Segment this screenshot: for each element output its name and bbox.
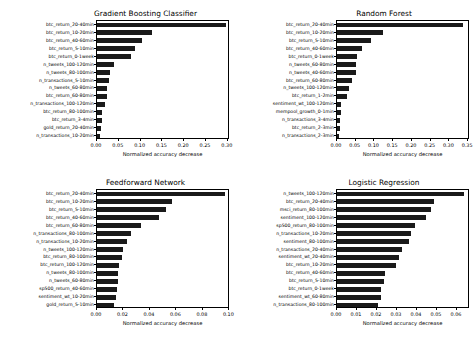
plot-area <box>96 189 229 308</box>
bar <box>337 255 399 260</box>
y-tick-mark <box>334 119 336 120</box>
y-tick-mark <box>334 40 336 41</box>
y-tick-labels: btc_return_20-40minbtc_return_10-20minbt… <box>238 20 334 139</box>
bar <box>97 192 225 197</box>
y-tick-label: n_tweets_60-80min <box>289 61 334 66</box>
y-tick-mark <box>334 304 336 305</box>
y-tick-labels: btc_return_20-40minbtc_return_10-20minbt… <box>0 189 94 308</box>
y-tick-label: btc_return_40-60min <box>46 214 94 219</box>
x-tick-label: 0.00 <box>331 142 342 148</box>
x-tick-mark <box>336 139 337 141</box>
bar <box>337 102 341 107</box>
bar <box>97 239 127 244</box>
x-tick-mark <box>140 139 141 141</box>
y-tick-label: btc_return_80-100min <box>43 109 94 114</box>
x-tick-mark <box>336 308 337 310</box>
y-tick-mark <box>94 119 96 120</box>
y-tick-mark <box>94 40 96 41</box>
x-tick-label: 0.00 <box>331 311 342 317</box>
y-tick-label: n_transactions_10-20min <box>36 133 94 138</box>
y-tick-label: msci_return_80-100min <box>280 206 334 211</box>
panel-title: Random Forest <box>298 9 470 18</box>
bar <box>97 38 142 43</box>
y-tick-label: n_tweets_60-80min <box>49 85 94 90</box>
y-tick-label: btc_return_5-10min <box>49 206 94 211</box>
y-tick-mark <box>94 87 96 88</box>
bar <box>97 271 118 276</box>
y-tick-mark <box>94 272 96 273</box>
x-tick-mark <box>175 308 176 310</box>
x-tick-label: 0.10 <box>223 311 234 317</box>
bar <box>337 126 340 131</box>
bar <box>97 255 122 260</box>
y-tick-mark <box>334 48 336 49</box>
y-tick-label: btc_return_0-1week <box>49 53 94 58</box>
y-tick-label: n_transactions_100-120min <box>30 101 94 106</box>
bar <box>97 303 114 308</box>
y-tick-label: n_tweets_100-120min <box>283 190 334 195</box>
y-tick-mark <box>334 111 336 112</box>
y-tick-label: n_transactions_80-100min <box>273 302 334 307</box>
x-tick-label: 0.05 <box>431 311 442 317</box>
x-tick-mark <box>416 308 417 310</box>
y-tick-label: btc_return_3-4min <box>52 117 94 122</box>
bar <box>97 287 117 292</box>
x-tick-mark <box>430 139 431 141</box>
bar <box>97 263 119 268</box>
panel-title: Feedforward Network <box>58 178 233 187</box>
bar <box>97 199 172 204</box>
plot-area <box>336 20 469 139</box>
x-tick-label: 0.06 <box>170 311 181 317</box>
y-tick-mark <box>94 135 96 136</box>
y-tick-label: sentiment_wt_20-40min <box>279 254 334 259</box>
bar <box>337 78 352 83</box>
bar <box>337 86 349 91</box>
y-tick-label: n_tweets_40-60min <box>289 69 334 74</box>
y-tick-mark <box>334 249 336 250</box>
y-tick-mark <box>334 280 336 281</box>
y-tick-label: btc_return_10-20min <box>46 198 94 203</box>
x-tick-label: 0.15 <box>156 142 167 148</box>
y-tick-label: btc_return_20-40min <box>46 190 94 195</box>
bar-series <box>337 21 468 138</box>
bar <box>97 30 152 35</box>
x-tick-label: 0.02 <box>117 311 128 317</box>
y-tick-mark <box>334 32 336 33</box>
y-tick-mark <box>94 193 96 194</box>
y-tick-mark <box>334 201 336 202</box>
y-tick-mark <box>334 72 336 73</box>
y-tick-label: btc_return_5-10min <box>49 45 94 50</box>
x-tick-label: 0.30 <box>443 142 454 148</box>
bar <box>97 207 166 212</box>
bar <box>337 70 356 75</box>
bar <box>97 126 101 131</box>
y-tick-mark <box>94 225 96 226</box>
bar <box>337 30 383 35</box>
bar <box>97 86 107 91</box>
y-tick-mark <box>334 272 336 273</box>
y-tick-mark <box>94 264 96 265</box>
y-tick-mark <box>334 56 336 57</box>
x-tick-label: 0.00 <box>91 311 102 317</box>
y-tick-mark <box>334 233 336 234</box>
y-tick-mark <box>334 193 336 194</box>
y-tick-mark <box>94 95 96 96</box>
bar <box>337 295 381 300</box>
x-tick-label: 0.20 <box>178 142 189 148</box>
y-tick-label: btc_return_0-1week <box>289 53 334 58</box>
y-tick-mark <box>334 103 336 104</box>
y-tick-mark <box>334 217 336 218</box>
bar <box>337 279 384 284</box>
y-tick-label: n_transactions_80-100min <box>33 230 94 235</box>
bar <box>337 192 464 197</box>
x-tick-label: 0.15 <box>387 142 398 148</box>
y-tick-mark <box>334 80 336 81</box>
y-tick-label: sentiment_100-120min <box>281 214 334 219</box>
y-tick-labels: btc_return_20-40minbtc_return_10-20minbt… <box>0 20 94 139</box>
x-tick-label: 0.25 <box>424 142 435 148</box>
y-tick-mark <box>94 111 96 112</box>
x-tick-mark <box>396 308 397 310</box>
bar <box>97 102 105 107</box>
bar <box>97 279 118 284</box>
bar <box>97 215 159 220</box>
